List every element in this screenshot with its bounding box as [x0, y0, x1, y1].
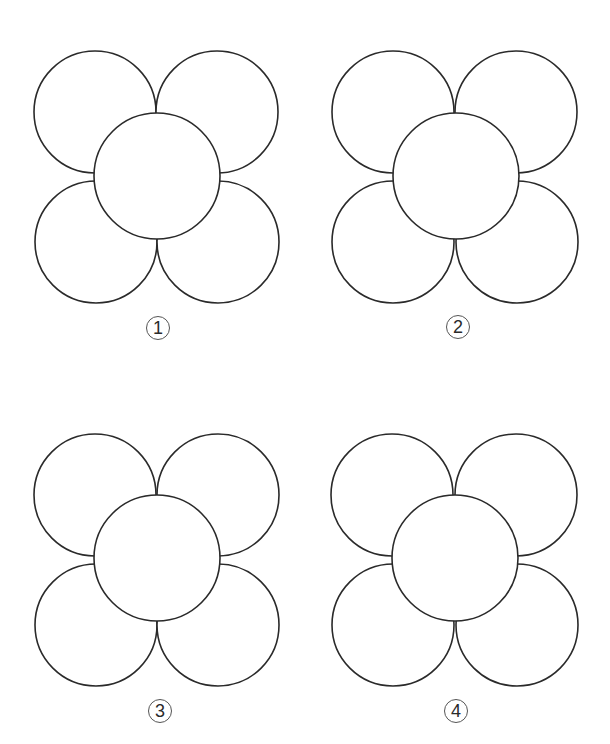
figure-label-4: 4 [444, 699, 468, 723]
figure-4: 4 [0, 0, 610, 744]
label-text: 4 [451, 702, 461, 720]
flower-shape-4 [0, 0, 610, 744]
center-circle [392, 495, 518, 621]
